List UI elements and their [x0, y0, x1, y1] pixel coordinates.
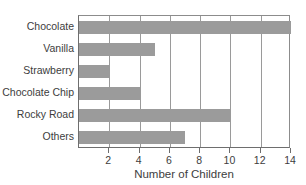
bar [79, 109, 230, 122]
category-label: Rocky Road [0, 109, 74, 120]
x-tick-label: 6 [157, 154, 181, 166]
category-label: Vanilla [0, 43, 74, 54]
gridline [200, 16, 201, 147]
x-tick-mark [290, 148, 291, 153]
bar [79, 43, 155, 56]
bar [79, 21, 291, 34]
x-tick-mark [139, 148, 140, 153]
x-tick-label: 8 [187, 154, 211, 166]
x-tick-mark [108, 148, 109, 153]
bar [79, 131, 185, 144]
category-label: Strawberry [0, 65, 74, 76]
bar-chart: ChocolateVanillaStrawberryChocolate Chip… [0, 0, 306, 185]
x-tick-mark [169, 148, 170, 153]
category-axis-labels: ChocolateVanillaStrawberryChocolate Chip… [0, 15, 74, 148]
gridline [230, 16, 231, 147]
x-tick-label: 12 [248, 154, 272, 166]
plot-area [78, 15, 290, 148]
category-label: Chocolate Chip [0, 87, 74, 98]
gridline [170, 16, 171, 147]
gridline [109, 16, 110, 147]
x-tick-label: 14 [278, 154, 302, 166]
x-tick-label: 2 [96, 154, 120, 166]
x-axis-title: Number of Children [78, 168, 290, 181]
gridline [261, 16, 262, 147]
x-tick-mark [229, 148, 230, 153]
bar [79, 65, 109, 78]
x-tick-label: 10 [217, 154, 241, 166]
bar [79, 87, 140, 100]
category-label: Chocolate [0, 21, 74, 32]
x-tick-mark [260, 148, 261, 153]
gridline [140, 16, 141, 147]
x-tick-label: 4 [127, 154, 151, 166]
category-label: Others [0, 131, 74, 142]
x-tick-mark [199, 148, 200, 153]
